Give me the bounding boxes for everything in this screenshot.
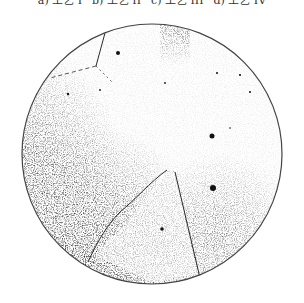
micrograph-image bbox=[0, 0, 304, 303]
micrograph-field bbox=[0, 0, 304, 303]
